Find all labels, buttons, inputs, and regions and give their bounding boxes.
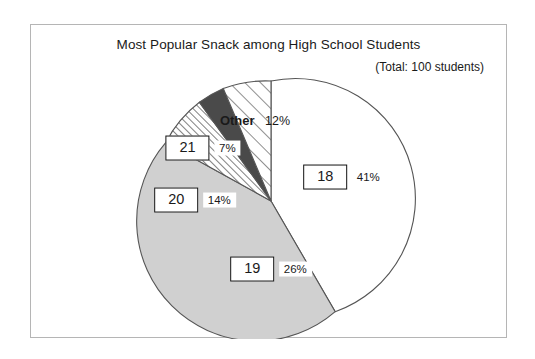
chart-frame: Most Popular Snack among High School Stu…: [30, 24, 507, 338]
pie-label-18-value: 18: [303, 165, 347, 190]
pie-label-21: 21 7%: [165, 136, 240, 161]
pie-label-20: 20 14%: [154, 188, 236, 213]
pie-label-other-percent: 12%: [262, 114, 293, 129]
pie-svg: [31, 25, 508, 339]
pie-label-21-value: 21: [165, 136, 209, 161]
pie-label-20-value: 20: [154, 188, 198, 213]
pie-label-19-value: 19: [230, 257, 274, 282]
pie-label-18: 18 41%: [303, 165, 385, 190]
pie-label-other: Other 12%: [217, 112, 293, 129]
pie-label-21-percent: 7%: [214, 141, 241, 156]
pie-label-other-value: Other: [217, 114, 258, 129]
pie-label-19: 19 26%: [230, 257, 312, 282]
pie-label-19-percent: 26%: [279, 262, 312, 277]
pie-label-20-percent: 14%: [203, 193, 236, 208]
pie-label-18-percent: 41%: [352, 170, 385, 185]
pie-chart: 18 41% 19 26% 20 14% 21 7% Other 12%: [31, 25, 508, 339]
